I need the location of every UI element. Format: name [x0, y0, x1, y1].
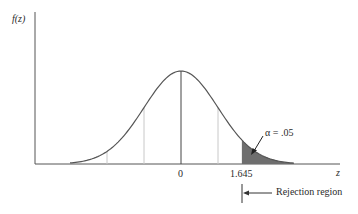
normal-curve	[70, 71, 294, 163]
alpha-annotation: α = .05	[265, 127, 293, 138]
tick-label-zero: 0	[178, 168, 183, 179]
normal-distribution-diagram	[0, 0, 358, 214]
y-axis-label: f(z)	[12, 13, 25, 24]
rejection-arrow-head	[243, 191, 249, 196]
alpha-pointer-line	[254, 136, 263, 151]
rejection-area	[242, 140, 294, 164]
rejection-region-label: Rejection region	[276, 186, 342, 197]
tick-label-critical: 1.645	[230, 168, 253, 179]
x-axis-label: z	[336, 167, 340, 178]
